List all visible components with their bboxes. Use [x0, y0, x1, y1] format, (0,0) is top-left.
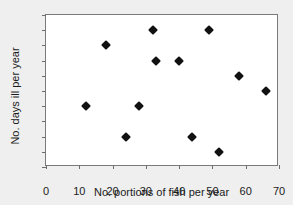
y-axis-tick	[42, 15, 46, 16]
data-point	[101, 40, 111, 50]
data-point	[174, 56, 184, 66]
x-axis-tick	[179, 165, 180, 169]
plot-frame: 012345678910010203040506070	[45, 14, 278, 166]
y-axis-tick	[42, 91, 46, 92]
y-axis-tick	[42, 137, 46, 138]
x-axis-title: No. portions of fish per year	[45, 186, 278, 198]
data-point	[188, 132, 198, 142]
y-axis-title: No. days ill per year	[9, 21, 21, 171]
y-axis-tick	[42, 30, 46, 31]
data-point	[134, 101, 144, 111]
data-point	[121, 132, 131, 142]
data-point	[148, 25, 158, 35]
y-axis-tick	[42, 61, 46, 62]
x-axis-tick	[113, 165, 114, 169]
x-axis-tick	[146, 165, 147, 169]
y-axis-tick	[42, 76, 46, 77]
data-point	[204, 25, 214, 35]
x-axis-tick	[279, 165, 280, 169]
plot-area: 012345678910010203040506070	[46, 15, 277, 165]
y-axis-tick	[42, 121, 46, 122]
data-point	[214, 147, 224, 157]
x-axis-tick	[212, 165, 213, 169]
data-point	[234, 71, 244, 81]
x-axis-tick	[79, 165, 80, 169]
y-axis-tick	[42, 45, 46, 46]
data-point	[81, 101, 91, 111]
x-axis-tick	[246, 165, 247, 169]
x-axis-tick	[46, 165, 47, 169]
data-point	[261, 86, 271, 96]
y-axis-tick	[42, 152, 46, 153]
scatter-chart-figure: 012345678910010203040506070 No. portions…	[0, 0, 293, 205]
data-point	[151, 56, 161, 66]
y-axis-tick	[42, 106, 46, 107]
